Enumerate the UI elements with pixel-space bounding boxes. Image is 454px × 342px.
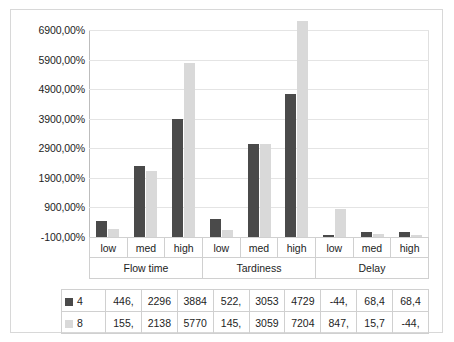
data-table: 4446,22963884522,30534729-44,68,468,4 81…: [61, 289, 429, 334]
data-cell: 446,: [106, 290, 142, 312]
data-cell: 847,: [321, 312, 357, 334]
group-label-cell: Flow time: [90, 258, 203, 279]
bar-series8-low-0: [108, 229, 119, 237]
gridline: [89, 89, 429, 90]
data-cell: 4729: [285, 290, 321, 312]
category-cell: low: [202, 238, 240, 258]
bar-series4-med-4: [248, 144, 259, 237]
group-label-cell: Tardiness: [202, 258, 315, 279]
y-axis-tick-label: 900,00%: [11, 201, 85, 213]
category-cell: high: [165, 238, 203, 258]
plot-right-border: [428, 30, 429, 237]
group-label-cell: Delay: [315, 258, 428, 279]
category-cell: med: [353, 238, 391, 258]
category-axis-table: lowmedhighlowmedhighlowmedhigh Flow time…: [89, 237, 429, 279]
data-cell: 522,: [213, 290, 249, 312]
y-axis-line: [89, 30, 90, 237]
data-cell: 3059: [249, 312, 285, 334]
bar-series8-low-3: [222, 230, 233, 237]
category-cell: low: [90, 238, 128, 258]
bar-series8-low-6: [335, 209, 346, 237]
legend-swatch-icon: [65, 320, 73, 328]
data-cell: 3053: [249, 290, 285, 312]
data-cell: 2296: [141, 290, 177, 312]
y-axis-tick-labels: -100,00%900,00%1900,00%2900,00%3900,00%4…: [11, 10, 87, 242]
bar-series4-low-0: [96, 221, 107, 237]
data-cell: 3884: [177, 290, 213, 312]
table-row: 8155,21385770145,30597204847,15,7-44,: [62, 312, 429, 334]
chart-container: -100,00%900,00%1900,00%2900,00%3900,00%4…: [10, 9, 443, 333]
data-cell: 68,4: [357, 290, 393, 312]
plot-wrapper: -100,00%900,00%1900,00%2900,00%3900,00%4…: [11, 10, 444, 242]
bar-series4-low-3: [210, 219, 221, 237]
y-axis-tick-label: 2900,00%: [11, 142, 85, 154]
bar-series8-high-5: [297, 21, 308, 237]
category-cell: low: [315, 238, 353, 258]
category-cell: high: [391, 238, 429, 258]
bar-series8-med-1: [146, 171, 157, 237]
bar-series8-med-4: [260, 144, 271, 237]
data-cell: 145,: [213, 312, 249, 334]
legend-cell-series-8: 8: [62, 312, 106, 334]
bar-series8-high-2: [184, 63, 195, 237]
bar-series4-high-2: [172, 119, 183, 237]
group-row: Flow timeTardinessDelay: [90, 258, 429, 279]
data-cell: 15,7: [357, 312, 393, 334]
bar-series4-high-5: [285, 94, 296, 237]
legend-cell-series-4: 4: [62, 290, 106, 312]
gridline: [89, 119, 429, 120]
data-cell: 7204: [285, 312, 321, 334]
y-axis-tick-label: 3900,00%: [11, 113, 85, 125]
y-axis-tick-label: 6900,00%: [11, 24, 85, 36]
category-cell: high: [278, 238, 316, 258]
y-axis-tick-label: 1900,00%: [11, 172, 85, 184]
data-cell: -44,: [393, 312, 429, 334]
plot-area: [89, 10, 429, 242]
legend-series-name: 4: [77, 295, 83, 307]
y-axis-tick-label: 4900,00%: [11, 83, 85, 95]
data-cell: -44,: [321, 290, 357, 312]
legend-swatch-icon: [65, 298, 73, 306]
category-row: lowmedhighlowmedhighlowmedhigh: [90, 238, 429, 258]
data-cell: 5770: [177, 312, 213, 334]
data-cell: 155,: [106, 312, 142, 334]
table-row: 4446,22963884522,30534729-44,68,468,4: [62, 290, 429, 312]
y-axis-tick-label: 5900,00%: [11, 54, 85, 66]
category-cell: med: [240, 238, 278, 258]
gridline: [89, 30, 429, 31]
legend-series-name: 8: [77, 317, 83, 329]
data-cell: 68,4: [393, 290, 429, 312]
gridline: [89, 60, 429, 61]
bar-series4-med-1: [134, 166, 145, 237]
category-cell: med: [127, 238, 165, 258]
y-axis-tick-label: -100,00%: [11, 231, 85, 243]
data-cell: 2138: [141, 312, 177, 334]
